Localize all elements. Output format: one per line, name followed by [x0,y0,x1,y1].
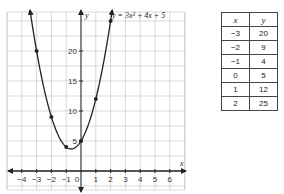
svg-text:5: 5 [153,175,158,184]
table-row: 05 [222,69,278,83]
svg-text:−4: −4 [17,175,27,184]
table-row: −29 [222,41,278,55]
table-row: 225 [222,97,278,111]
tick-labels: −4−3−2−101234565101520 [17,47,172,184]
cell-y: 12 [250,83,278,97]
cell-x: −3 [222,27,250,41]
svg-text:1: 1 [94,175,99,184]
svg-text:5: 5 [73,137,78,146]
cell-x: −2 [222,41,250,55]
table-row: −14 [222,55,278,69]
y-axis-label: y [84,11,89,20]
svg-text:−1: −1 [62,175,72,184]
table-row: −320 [222,27,278,41]
table-header-row: x y [222,13,278,27]
cell-y: 4 [250,55,278,69]
cell-y: 9 [250,41,278,55]
cell-x: −1 [222,55,250,69]
svg-text:6: 6 [168,175,173,184]
svg-text:15: 15 [68,77,77,86]
cell-y: 20 [250,27,278,41]
cell-x: 0 [222,69,250,83]
cell-x: 2 [222,97,250,111]
x-axis-label: x [179,159,184,168]
header-y: y [250,13,278,27]
cell-y: 25 [250,97,278,111]
svg-text:20: 20 [68,47,77,56]
table-row: 112 [222,83,278,97]
svg-text:−2: −2 [47,175,57,184]
header-x: x [222,13,250,27]
svg-text:3: 3 [123,175,128,184]
cell-x: 1 [222,83,250,97]
svg-text:4: 4 [138,175,143,184]
cell-y: 5 [250,69,278,83]
svg-text:−3: −3 [32,175,42,184]
parabola-graph: −4−3−2−101234565101520 y = 3x² + 4x + 5 … [0,0,200,194]
svg-text:0: 0 [75,175,80,184]
grid [7,12,185,190]
values-table: x y −320 −29 −14 05 112 225 [221,12,278,111]
equation-label: y = 3x² + 4x + 5 [111,11,165,20]
svg-text:10: 10 [68,107,77,116]
svg-text:2: 2 [108,175,113,184]
